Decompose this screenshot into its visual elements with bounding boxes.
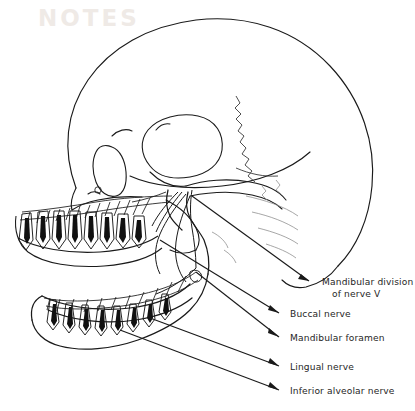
label-lingual-nerve: Lingual nerve <box>290 362 354 372</box>
mandibular-nerve-trunk <box>191 190 197 268</box>
frontal-nasal-border <box>71 188 76 210</box>
label-buccal-nerve: Buccal nerve <box>290 309 351 319</box>
nasal-aperture <box>93 146 126 197</box>
label-mandibular-foramen: Mandibular foramen <box>290 333 385 343</box>
nasal-bone <box>112 130 132 136</box>
maxillary-teeth-group <box>16 211 163 266</box>
label-inferior-alveolar-nerve: Inferior alveolar nerve <box>290 386 395 396</box>
anatomical-figure: NOTES <box>0 0 415 411</box>
inferior-alveolar-nerve-canal <box>44 272 198 312</box>
facial-skeleton-group <box>71 115 286 253</box>
skull-outline-group <box>68 19 373 288</box>
zygomatic-arch-lower <box>190 192 282 209</box>
maxillary-tooth-outlines <box>19 211 146 250</box>
supraorbital-notch <box>156 124 170 130</box>
orbit-outline <box>142 115 222 178</box>
leader-arrowheads-group <box>268 274 309 390</box>
lingual-nerve-branch <box>175 196 190 282</box>
arrowhead-inferior-alveolar-nerve <box>268 382 279 390</box>
arrowhead-lingual-nerve <box>268 358 279 366</box>
skull-diagram-svg: NOTES <box>0 0 415 411</box>
ghost-bleed-text: NOTES <box>38 5 140 31</box>
maxilla-anterior <box>72 197 142 210</box>
zygomatic-arch <box>186 180 286 200</box>
mandibular-nerve-branches <box>152 190 202 294</box>
leader-buccal-nerve <box>160 240 279 313</box>
maxillary-pulp-chambers <box>24 215 142 244</box>
arrowhead-mandibular-foramen <box>268 328 279 337</box>
suture-group <box>235 96 278 182</box>
leader-lingual-nerve <box>150 318 279 366</box>
leader-mandibular-foramen <box>196 272 279 337</box>
arrowhead-mandibular-division <box>298 274 309 281</box>
label-mandibular-division-line1: Mandibular division <box>322 277 413 287</box>
leader-mandibular-division <box>192 196 309 281</box>
leader-inferior-alveolar-nerve <box>120 330 279 390</box>
pterygoid-plate <box>170 250 196 253</box>
arrowhead-buccal-nerve <box>268 305 279 313</box>
label-mandibular-division-line2: of nerve V <box>332 289 381 299</box>
mandible-body-lower-border <box>31 296 42 320</box>
